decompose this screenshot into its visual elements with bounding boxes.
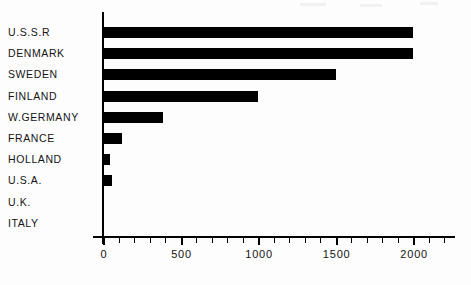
category-label: U.S.S.R <box>8 22 96 43</box>
bar-chart: U.S.S.RDENMARKSWEDENFINLANDW.GERMANYFRAN… <box>0 0 471 285</box>
x-tick-minor <box>398 238 399 243</box>
scan-artifact <box>300 3 326 6</box>
category-label: DENMARK <box>8 43 96 64</box>
bar <box>103 69 336 80</box>
x-tick-minor <box>320 238 321 243</box>
x-tick-minor <box>165 238 166 243</box>
x-tick-major <box>413 238 415 245</box>
bar <box>103 48 413 59</box>
x-tick-minor <box>367 238 368 243</box>
bar <box>103 154 110 165</box>
x-tick-label: 2000 <box>400 248 428 260</box>
x-tick-minor <box>382 238 383 243</box>
x-tick-minor <box>150 238 151 243</box>
x-tick-minor <box>119 238 120 243</box>
x-tick-minor <box>243 238 244 243</box>
bar <box>103 112 163 123</box>
bars-layer <box>103 0 471 285</box>
x-tick-label: 500 <box>171 248 192 260</box>
category-label: FINLAND <box>8 86 96 107</box>
x-tick-major <box>258 238 260 245</box>
category-label: SWEDEN <box>8 64 96 85</box>
x-tick-minor <box>274 238 275 243</box>
scan-artifact <box>360 4 382 7</box>
x-tick-major <box>336 238 338 245</box>
category-axis-labels: U.S.S.RDENMARKSWEDENFINLANDW.GERMANYFRAN… <box>0 0 96 285</box>
bar <box>103 175 112 186</box>
x-tick-minor <box>196 238 197 243</box>
scan-artifact <box>420 2 438 5</box>
x-tick-minor <box>351 238 352 243</box>
x-tick-minor <box>305 238 306 243</box>
category-label: W.GERMANY <box>8 107 96 128</box>
x-tick-minor <box>134 238 135 243</box>
x-tick-major <box>181 238 183 245</box>
x-tick-minor <box>444 238 445 243</box>
x-tick-minor <box>227 238 228 243</box>
x-tick-major <box>103 238 105 245</box>
category-label: U.S.A. <box>8 170 96 191</box>
category-label: FRANCE <box>8 128 96 149</box>
bar <box>103 91 258 102</box>
x-tick-label: 1500 <box>323 248 351 260</box>
category-label: U.K. <box>8 192 96 213</box>
x-tick-label: 1000 <box>245 248 273 260</box>
bar <box>103 133 122 144</box>
category-label: ITALY <box>8 213 96 234</box>
category-label: HOLLAND <box>8 149 96 170</box>
x-tick-label: 0 <box>101 248 108 260</box>
bar <box>103 27 413 38</box>
x-tick-minor <box>212 238 213 243</box>
x-tick-minor <box>429 238 430 243</box>
x-tick-minor <box>289 238 290 243</box>
